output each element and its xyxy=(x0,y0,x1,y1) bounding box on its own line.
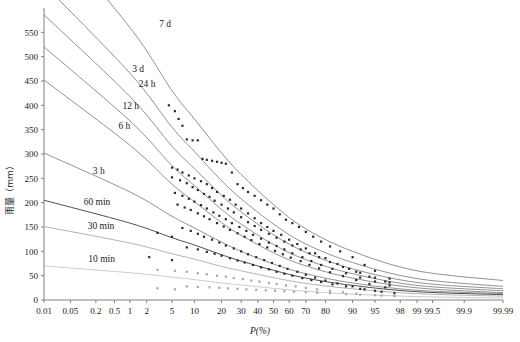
scatter-point xyxy=(329,292,331,294)
x-axis-title: P(%) xyxy=(249,326,270,337)
scatter-point xyxy=(324,279,326,281)
scatter-point xyxy=(359,272,361,274)
scatter-point xyxy=(305,287,307,289)
scatter-point xyxy=(181,227,183,229)
scatter-point xyxy=(388,277,390,279)
scatter-point xyxy=(380,295,382,297)
scatter-point xyxy=(272,207,274,209)
scatter-point xyxy=(218,287,220,289)
scatter-point xyxy=(201,158,203,160)
scatter-point xyxy=(283,273,285,275)
scatter-point xyxy=(233,211,235,213)
scatter-point xyxy=(192,139,194,141)
scatter-point xyxy=(225,244,227,246)
scatter-point xyxy=(288,239,290,241)
scatter-point xyxy=(301,277,303,279)
y-tick-label: 250 xyxy=(25,174,39,184)
scatter-point xyxy=(324,257,326,259)
series-label-3-h: 3 h xyxy=(93,166,105,176)
y-axis-title: 雨量（mm） xyxy=(5,161,15,215)
scatter-point xyxy=(193,201,195,203)
scatter-point xyxy=(206,207,208,209)
scatter-point xyxy=(197,233,199,235)
scatter-point xyxy=(231,171,233,173)
scatter-point xyxy=(268,233,270,235)
x-tick-label: 0.5 xyxy=(109,306,121,316)
x-tick-label: 99.9 xyxy=(456,306,472,316)
scatter-point xyxy=(329,271,331,273)
scatter-point xyxy=(329,290,331,292)
scatter-point xyxy=(225,163,227,165)
scatter-point xyxy=(247,253,249,255)
scatter-point xyxy=(355,279,357,281)
scatter-point xyxy=(266,226,268,228)
x-tick-label: 2 xyxy=(145,306,150,316)
scatter-point xyxy=(220,204,222,206)
scatter-point xyxy=(171,167,173,169)
scatter-point xyxy=(254,225,256,227)
scatter-point xyxy=(393,292,395,294)
scatter-point xyxy=(296,243,298,245)
scatter-point xyxy=(274,290,276,292)
scatter-point xyxy=(174,288,176,290)
scatter-point xyxy=(329,261,331,263)
scatter-point xyxy=(320,241,322,243)
x-tick-label: 0.2 xyxy=(90,306,101,316)
scatter-point xyxy=(254,195,256,197)
scatter-point xyxy=(314,252,316,254)
series-label-24-h: 24 h xyxy=(139,79,156,89)
scatter-point xyxy=(216,191,218,193)
scatter-point xyxy=(260,229,262,231)
scatter-point xyxy=(188,198,190,200)
scatter-point xyxy=(186,182,188,184)
scatter-point xyxy=(231,222,233,224)
scatter-point xyxy=(283,248,285,250)
scatter-point xyxy=(266,246,268,248)
x-tick-label: 90 xyxy=(348,306,358,316)
scatter-point xyxy=(218,215,220,217)
scatter-point xyxy=(258,280,260,282)
scatter-point xyxy=(384,286,386,288)
scatter-point xyxy=(274,250,276,252)
scatter-point xyxy=(279,265,281,267)
scatter-point xyxy=(168,104,170,106)
x-tick-label: 99 xyxy=(413,306,423,316)
scatter-point xyxy=(310,260,312,262)
scatter-point xyxy=(216,275,218,277)
curve-3-d xyxy=(44,0,503,286)
y-tick-labels: 050100150200250300350400450500550 xyxy=(25,28,45,306)
scatter-point xyxy=(240,216,242,218)
scatter-point xyxy=(345,285,347,287)
scatter-point xyxy=(300,248,302,250)
scatter-point xyxy=(280,234,282,236)
scatter-point xyxy=(318,256,320,258)
scatter-point xyxy=(291,222,293,224)
scatter-point xyxy=(363,264,365,266)
scatter-point xyxy=(359,277,361,279)
scatter-point xyxy=(203,236,205,238)
scatter-point xyxy=(285,284,287,286)
scatter-point xyxy=(368,283,370,285)
scatter-point xyxy=(308,264,310,266)
scatter-point xyxy=(342,266,344,268)
scatter-points-group xyxy=(148,104,395,297)
scatter-point xyxy=(227,287,229,289)
y-tick-label: 0 xyxy=(34,295,39,305)
scatter-point xyxy=(240,250,242,252)
scatter-point xyxy=(245,288,247,290)
scatter-point xyxy=(245,230,247,232)
scatter-point xyxy=(186,271,188,273)
scatter-point xyxy=(283,241,285,243)
scatter-point xyxy=(331,283,333,285)
scatter-point xyxy=(255,256,257,258)
y-tick-label: 450 xyxy=(25,76,39,86)
scatter-point xyxy=(193,177,195,179)
scatter-point xyxy=(220,162,222,164)
scatter-point xyxy=(186,138,188,140)
scatter-point xyxy=(329,245,331,247)
scatter-point xyxy=(339,250,341,252)
scatter-point xyxy=(174,110,176,112)
scatter-point xyxy=(279,213,281,215)
scatter-point xyxy=(174,192,176,194)
x-tick-label: 20 xyxy=(217,306,227,316)
